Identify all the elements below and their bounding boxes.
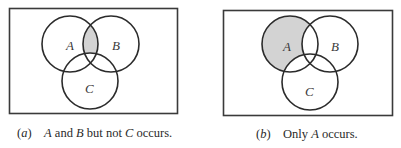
caption-tag-b: (b) <box>256 127 271 141</box>
caption-tag-a: (a) <box>17 126 32 140</box>
venn-diagram-b: A B C <box>224 11 393 116</box>
universe-rectangle-a <box>10 9 178 114</box>
venn-diagram-a: A B C <box>10 9 178 114</box>
caption-b-set-a: A <box>311 127 319 141</box>
caption-a-text-2: but not <box>84 126 125 140</box>
caption-b-text-2: occurs. <box>319 127 358 141</box>
caption-b: (b) Only A occurs. <box>256 127 358 141</box>
label-b: B <box>112 38 120 53</box>
label-a: A <box>65 38 74 53</box>
label-b: B <box>331 39 339 54</box>
label-c: C <box>305 84 314 99</box>
label-a: A <box>282 39 291 54</box>
caption-a-text-1: and <box>52 126 76 140</box>
caption-a-text-3: occurs. <box>133 126 172 140</box>
caption-a: (a) A and B but not C occurs. <box>17 126 172 140</box>
caption-a-set-a: A <box>44 126 52 140</box>
label-c: C <box>85 81 94 96</box>
caption-a-set-b: B <box>76 126 84 140</box>
caption-b-text-1: Only <box>283 127 311 141</box>
